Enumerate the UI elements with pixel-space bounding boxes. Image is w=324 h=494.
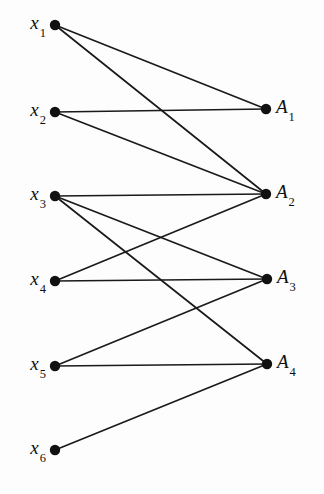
node-label-A4: A4	[277, 352, 295, 375]
node-label-A2: A2	[276, 182, 294, 205]
graph-node-A4	[262, 359, 272, 369]
graph-edge-x5-A4	[55, 364, 267, 366]
node-label-base-x4: x	[30, 268, 38, 289]
node-label-subscript-x3: 3	[40, 197, 46, 211]
node-label-x3: x3	[30, 184, 45, 207]
graph-node-A2	[261, 189, 271, 199]
node-label-base-A1: A	[276, 96, 288, 117]
graph-edge-x4-A2	[55, 194, 266, 281]
node-label-subscript-A2: 2	[289, 195, 295, 209]
node-label-base-x1: x	[30, 12, 38, 33]
graph-node-x1	[50, 20, 60, 30]
node-label-base-x5: x	[30, 353, 38, 374]
graph-node-x3	[50, 191, 60, 201]
node-label-x2: x2	[30, 100, 45, 123]
node-label-A1: A1	[276, 97, 294, 120]
node-label-subscript-x4: 4	[40, 282, 46, 296]
graph-edge-x2-A2	[55, 112, 266, 194]
graph-edge-x5-A3	[55, 279, 267, 366]
graph-edge-x4-A3	[55, 279, 267, 281]
graph-node-A1	[261, 104, 271, 114]
node-label-base-A4: A	[277, 351, 289, 372]
graph-node-x4	[50, 276, 60, 286]
node-label-base-x2: x	[30, 99, 38, 120]
graph-canvas	[0, 0, 324, 494]
graph-edge-x1-A1	[55, 25, 266, 109]
node-label-subscript-A4: 4	[290, 365, 296, 379]
node-label-subscript-A3: 3	[290, 280, 296, 294]
graph-node-x6	[50, 445, 60, 455]
node-label-base-x6: x	[30, 437, 38, 458]
node-label-base-x3: x	[30, 183, 38, 204]
graph-edge-x3-A2	[55, 194, 266, 196]
node-label-subscript-A1: 1	[289, 110, 295, 124]
node-label-x6: x6	[30, 438, 45, 461]
node-label-x4: x4	[30, 269, 45, 292]
node-label-subscript-x5: 5	[40, 367, 46, 381]
node-label-x1: x1	[30, 13, 45, 36]
node-label-subscript-x6: 6	[40, 451, 46, 465]
node-label-subscript-x1: 1	[40, 26, 46, 40]
graph-edge-x6-A4	[55, 364, 267, 450]
graph-node-x5	[50, 361, 60, 371]
node-label-base-A3: A	[277, 266, 289, 287]
node-label-x5: x5	[30, 354, 45, 377]
node-label-base-A2: A	[276, 181, 288, 202]
node-label-subscript-x2: 2	[40, 113, 46, 127]
edges-group	[55, 25, 267, 450]
node-label-A3: A3	[277, 267, 295, 290]
graph-node-A3	[262, 274, 272, 284]
bipartite-graph-figure: x1x2x3x4x5x6A1A2A3A4	[0, 0, 324, 494]
graph-node-x2	[50, 107, 60, 117]
